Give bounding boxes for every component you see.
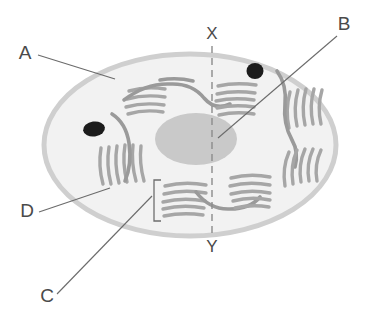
nucleus	[155, 113, 237, 165]
axis-label-x: X	[206, 24, 217, 43]
callout-label-d: D	[20, 200, 34, 221]
leader-line-a	[38, 55, 115, 79]
granule-right	[247, 63, 264, 79]
callout-label-c: C	[40, 285, 54, 306]
callout-label-a: A	[19, 42, 32, 63]
axis-label-y: Y	[206, 237, 217, 256]
callout-label-b: B	[338, 13, 351, 34]
cell-diagram-figure: A B C D X Y	[0, 0, 372, 323]
